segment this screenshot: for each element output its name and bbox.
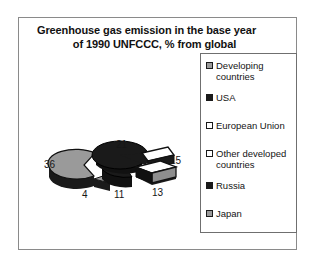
- chart-title-line-1: Greenhouse gas emission in the base year: [19, 23, 296, 37]
- legend-swatch-icon-other-developed-countries: [206, 150, 213, 157]
- legend-label-other-developed-countries: Other developed countries: [216, 148, 286, 170]
- pie-data-label-usa: 21: [116, 139, 127, 150]
- chart-frame: Greenhouse gas emission in the base year…: [18, 17, 297, 250]
- legend-label-russia: Russia: [216, 180, 245, 191]
- chart-legend: Developing countries USA European Union …: [200, 53, 297, 233]
- pie-data-label-japan: 4: [82, 189, 88, 200]
- figure-canvas: Greenhouse gas emission in the base year…: [0, 0, 315, 266]
- legend-item-russia[interactable]: Russia: [206, 180, 296, 191]
- legend-item-developing-countries[interactable]: Developing countries: [206, 60, 296, 82]
- pie-data-label-russia: 11: [114, 189, 124, 200]
- legend-swatch-icon-european-union: [206, 122, 213, 129]
- legend-swatch-icon-russia: [206, 182, 213, 189]
- pie-chart: 36 21 15 13 11 4: [24, 113, 204, 203]
- chart-title-line-2: of 1990 UNFCCC, % from global: [19, 37, 296, 51]
- legend-swatch-icon-japan: [206, 210, 213, 217]
- legend-label-european-union: European Union: [216, 120, 285, 131]
- legend-item-japan[interactable]: Japan: [206, 208, 296, 219]
- page-title: Greenhouse gas emission in the base year…: [19, 23, 296, 51]
- legend-label-usa: USA: [216, 92, 236, 103]
- pie-data-label-european-union: 15: [170, 155, 181, 166]
- pie-data-label-other-developed-countries: 13: [152, 187, 163, 198]
- legend-swatch-icon-usa: [206, 94, 213, 101]
- legend-item-european-union[interactable]: European Union: [206, 120, 296, 131]
- pie-data-label-developing-countries: 36: [44, 159, 55, 170]
- legend-label-developing-countries: Developing countries: [216, 60, 264, 82]
- legend-item-other-developed-countries[interactable]: Other developed countries: [206, 148, 296, 170]
- legend-swatch-icon-developing-countries: [206, 62, 213, 69]
- legend-label-japan: Japan: [216, 208, 242, 219]
- legend-item-usa[interactable]: USA: [206, 92, 296, 103]
